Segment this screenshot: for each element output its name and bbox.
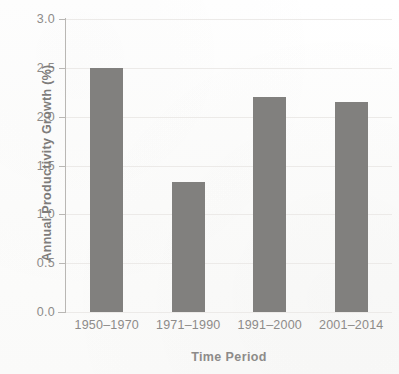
y-axis-tick-mark	[59, 312, 66, 313]
bar	[90, 68, 123, 312]
plot-area	[66, 19, 392, 312]
bar	[253, 97, 286, 312]
bar-chart-figure: 0.00.51.01.52.02.53.0 Annual Productivit…	[0, 0, 399, 374]
x-axis-tick-label: 1950–1970	[66, 318, 148, 332]
y-axis-tick-mark	[59, 214, 66, 215]
bar	[172, 182, 205, 312]
gridline	[66, 312, 392, 313]
y-axis-tick-mark	[59, 263, 66, 264]
gridline	[66, 19, 392, 20]
y-axis-tick-mark	[59, 166, 66, 167]
y-axis-tick-mark	[59, 117, 66, 118]
y-axis-title: Annual Productivity Growth (%)	[40, 43, 54, 283]
y-axis-title-wrapper: Annual Productivity Growth (%)	[22, 0, 23, 374]
y-axis-tick-label: 3.0	[9, 12, 55, 26]
y-axis-tick-mark	[59, 19, 66, 20]
y-axis-tick-mark	[59, 68, 66, 69]
y-axis-tick-label: 0.0	[9, 305, 55, 319]
x-axis-tick-label: 1971–1990	[148, 318, 230, 332]
bar	[335, 102, 368, 312]
x-axis-tick-label: 2001–2014	[311, 318, 393, 332]
x-axis-tick-label: 1991–2000	[229, 318, 311, 332]
x-axis-title: Time Period	[66, 350, 392, 364]
